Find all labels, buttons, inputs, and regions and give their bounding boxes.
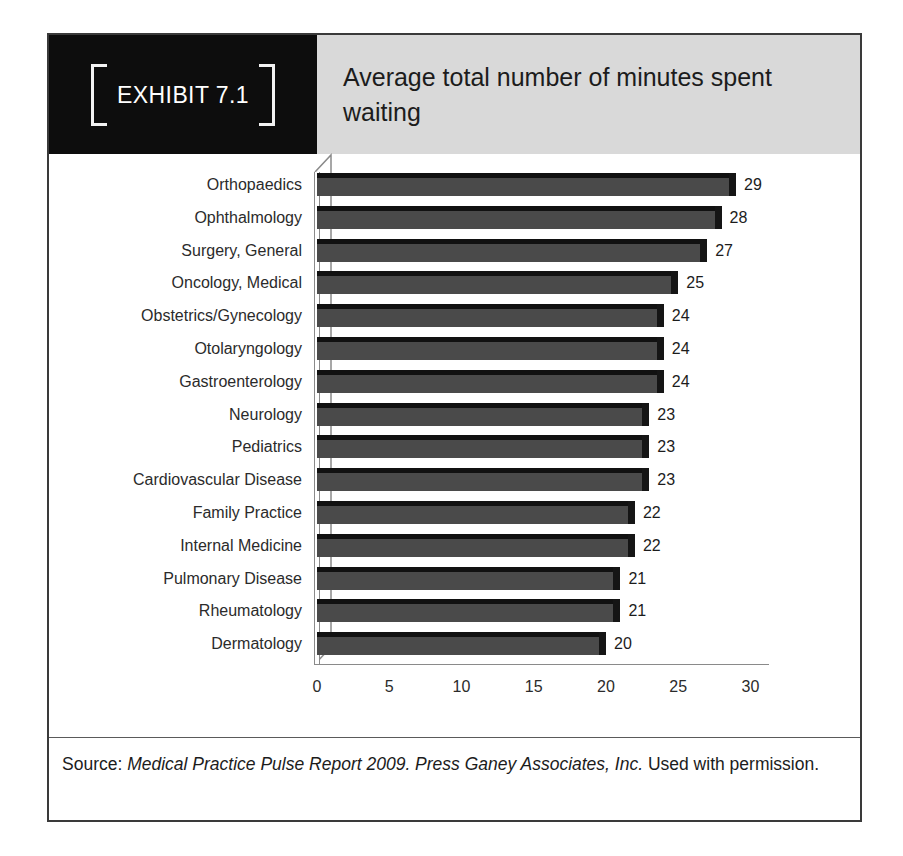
bar-row: 22	[317, 534, 695, 557]
category-label: Dermatology	[52, 636, 302, 652]
bar-value-label: 22	[643, 537, 661, 555]
bar-end-face	[642, 468, 649, 491]
bar-top-face	[317, 567, 620, 572]
bar	[317, 304, 664, 327]
bar	[317, 632, 606, 655]
bar-value-label: 29	[744, 176, 762, 194]
bar-top-face	[317, 304, 664, 309]
bar-row: 20	[317, 632, 666, 655]
x-axis-tick-label: 20	[597, 678, 615, 696]
exhibit-frame: EXHIBIT 7.1 Average total number of minu…	[47, 33, 862, 822]
bar	[317, 239, 707, 262]
x-axis-line	[314, 664, 769, 665]
bar-top-face	[317, 435, 649, 440]
bar	[317, 599, 620, 622]
bar-chart-plot: OrthopaedicsOphthalmologySurgery, Genera…	[49, 154, 860, 737]
bar-end-face	[613, 599, 620, 622]
bar	[317, 206, 722, 229]
source-citation: Medical Practice Pulse Report 2009. Pres…	[127, 754, 643, 774]
category-axis-labels: OrthopaedicsOphthalmologySurgery, Genera…	[52, 154, 302, 737]
exhibit-header: EXHIBIT 7.1 Average total number of minu…	[49, 35, 860, 154]
bar-end-face	[642, 403, 649, 426]
value-axis-ticks: 051015202530	[49, 678, 860, 708]
bar	[317, 567, 620, 590]
bar-row: 24	[317, 337, 724, 360]
bar	[317, 435, 649, 458]
bar-row: 22	[317, 501, 695, 524]
bar-top-face	[317, 632, 606, 637]
bar-value-label: 22	[643, 504, 661, 522]
exhibit-title: Average total number of minutes spent wa…	[343, 60, 773, 130]
exhibit-title-panel: Average total number of minutes spent wa…	[317, 35, 860, 154]
bar-value-label: 24	[672, 373, 690, 391]
bar-row: 23	[317, 435, 709, 458]
bar-row: 21	[317, 567, 680, 590]
category-label: Family Practice	[52, 505, 302, 521]
source-note: Source: Medical Practice Pulse Report 20…	[49, 737, 860, 778]
chart-area: OrthopaedicsOphthalmologySurgery, Genera…	[49, 154, 860, 737]
bar	[317, 271, 678, 294]
bar-value-label: 21	[628, 602, 646, 620]
bar-end-face	[700, 239, 707, 262]
category-label: Neurology	[52, 407, 302, 423]
bar-top-face	[317, 239, 707, 244]
bar-end-face	[671, 271, 678, 294]
bar-row: 28	[317, 206, 782, 229]
category-label: Pulmonary Disease	[52, 571, 302, 587]
bar-value-label: 20	[614, 635, 632, 653]
bar-end-face	[657, 370, 664, 393]
category-label: Orthopaedics	[52, 177, 302, 193]
bar-value-label: 25	[686, 274, 704, 292]
bar-top-face	[317, 271, 678, 276]
bar-row: 21	[317, 599, 680, 622]
category-label: Ophthalmology	[52, 210, 302, 226]
bar-end-face	[599, 632, 606, 655]
bar-top-face	[317, 370, 664, 375]
category-label: Oncology, Medical	[52, 275, 302, 291]
bar-row: 25	[317, 271, 738, 294]
x-axis-tick-label: 10	[453, 678, 471, 696]
bar-value-label: 27	[715, 242, 733, 260]
x-axis-tick-label: 30	[742, 678, 760, 696]
x-axis-tick-label: 25	[669, 678, 687, 696]
bar	[317, 370, 664, 393]
bar-end-face	[628, 501, 635, 524]
left-bracket-icon	[91, 64, 107, 126]
right-bracket-icon	[259, 64, 275, 126]
exhibit-badge: EXHIBIT 7.1	[49, 35, 317, 154]
bar-end-face	[657, 304, 664, 327]
bar	[317, 501, 635, 524]
category-label: Gastroenterology	[52, 374, 302, 390]
bar-row: 24	[317, 370, 724, 393]
bar	[317, 173, 736, 196]
category-label: Internal Medicine	[52, 538, 302, 554]
bar-top-face	[317, 337, 664, 342]
bar-row: 29	[317, 173, 796, 196]
bar-value-label: 28	[730, 209, 748, 227]
bar	[317, 534, 635, 557]
exhibit-number-label: EXHIBIT 7.1	[117, 82, 249, 108]
bar-end-face	[628, 534, 635, 557]
category-label: Rheumatology	[52, 603, 302, 619]
bar-top-face	[317, 599, 620, 604]
category-label: Obstetrics/Gynecology	[52, 308, 302, 324]
bar-row: 23	[317, 468, 709, 491]
source-prefix: Source:	[62, 754, 127, 774]
bar-row: 23	[317, 403, 709, 426]
bar-top-face	[317, 403, 649, 408]
bar-top-face	[317, 534, 635, 539]
bar-top-face	[317, 468, 649, 473]
bar-value-label: 24	[672, 307, 690, 325]
bar-value-label: 23	[657, 406, 675, 424]
bar-row: 24	[317, 304, 724, 327]
bar-value-label: 23	[657, 471, 675, 489]
bar-top-face	[317, 206, 722, 211]
bar-end-face	[642, 435, 649, 458]
category-label: Pediatrics	[52, 439, 302, 455]
source-suffix: Used with permission.	[643, 754, 819, 774]
bar-value-label: 21	[628, 570, 646, 588]
category-label: Surgery, General	[52, 243, 302, 259]
x-axis-tick-label: 5	[385, 678, 394, 696]
bar	[317, 468, 649, 491]
bar-value-label: 24	[672, 340, 690, 358]
